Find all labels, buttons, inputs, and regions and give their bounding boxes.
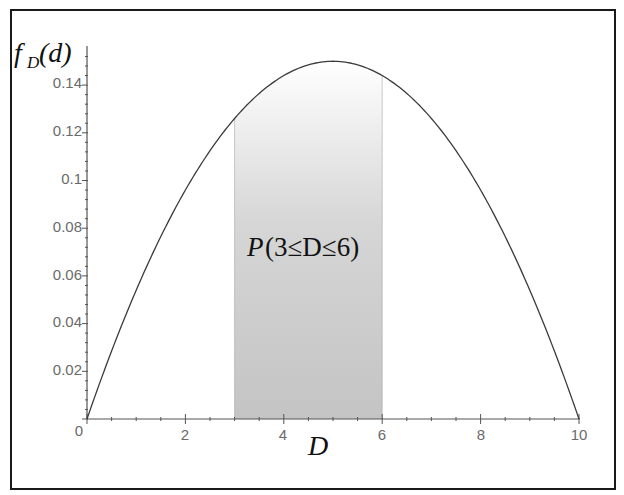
y-axis-title: f D (d) — [14, 37, 72, 72]
y-tick-label: 0.02 — [53, 361, 82, 378]
y-tick-label: 0.04 — [53, 313, 82, 330]
annotation-range: (3≤D≤6) — [265, 232, 359, 262]
x-axis-title: D — [307, 430, 328, 461]
y-tick-label: 0.14 — [53, 74, 82, 91]
probability-annotation: P (3≤D≤6) — [246, 232, 359, 262]
y-tick-labels: 0.02 0.04 0.06 0.08 0.1 0.12 0.14 — [53, 74, 82, 378]
x-tick-labels: 0 2 4 6 8 10 — [75, 422, 588, 443]
x-tick-label: 4 — [279, 426, 287, 443]
y-tick-label: 0.1 — [61, 170, 82, 187]
y-axis-title-subscript: D — [26, 53, 40, 72]
y-axis-title-argument: (d) — [39, 37, 72, 68]
annotation-P: P — [246, 232, 264, 262]
x-tick-label: 0 — [75, 422, 83, 439]
x-tick-label: 6 — [378, 426, 386, 443]
x-tick-label: 8 — [477, 426, 485, 443]
y-axis-title-f: f — [14, 37, 25, 68]
x-tick-label: 10 — [571, 426, 588, 443]
y-tick-label: 0.06 — [53, 266, 82, 283]
chart-plot: 0 2 4 6 8 10 0.02 0.04 0.06 0.08 0.1 0.1… — [0, 0, 624, 495]
y-tick-label: 0.08 — [53, 218, 82, 235]
x-tick-label: 2 — [181, 426, 189, 443]
y-tick-label: 0.12 — [53, 122, 82, 139]
